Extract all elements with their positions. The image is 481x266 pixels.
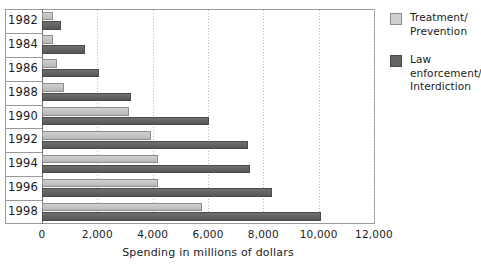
legend-label-line1: Treatment/ bbox=[410, 11, 480, 25]
category-separator bbox=[5, 9, 42, 10]
bar-treatment-1996 bbox=[42, 179, 158, 188]
chart-row: 1990 bbox=[0, 105, 375, 129]
bar-enforcement-1990 bbox=[42, 117, 209, 126]
bar-treatment-1998 bbox=[42, 203, 202, 212]
category-separator bbox=[5, 105, 42, 106]
chart-rows-group: 198219841986198819901992199419961998 bbox=[0, 9, 375, 224]
category-separator bbox=[5, 152, 42, 153]
category-separator bbox=[5, 176, 42, 177]
x-tick-label: 2,000 bbox=[82, 228, 113, 240]
bar-treatment-1988 bbox=[42, 83, 64, 92]
x-tick-label: 8,000 bbox=[248, 228, 279, 240]
bar-treatment-1994 bbox=[42, 155, 158, 164]
category-label-1994: 1994 bbox=[5, 155, 38, 172]
bar-chart-figure: 198219841986198819901992199419961998 02,… bbox=[0, 0, 481, 266]
x-tick-label: 12,000 bbox=[355, 228, 393, 240]
x-tick-label: 4,000 bbox=[137, 228, 168, 240]
chart-row: 1988 bbox=[0, 81, 375, 105]
chart-legend: Treatment/PreventionLaw enforcement/Inte… bbox=[390, 11, 480, 108]
bar-enforcement-1996 bbox=[42, 188, 272, 197]
chart-row: 1998 bbox=[0, 200, 375, 224]
legend-label-enforcement: Law enforcement/Interdiction bbox=[410, 53, 480, 94]
category-label-1984: 1984 bbox=[5, 36, 38, 53]
bar-treatment-1990 bbox=[42, 107, 129, 116]
x-axis-title: Spending in millions of dollars bbox=[41, 246, 375, 259]
category-label-1998: 1998 bbox=[5, 203, 38, 220]
chart-row: 1982 bbox=[0, 9, 375, 33]
legend-label-treatment: Treatment/Prevention bbox=[410, 11, 480, 38]
category-separator bbox=[5, 200, 42, 201]
category-label-1988: 1988 bbox=[5, 84, 38, 101]
x-tick-label: 10,000 bbox=[300, 228, 338, 240]
chart-row: 1992 bbox=[0, 128, 375, 152]
category-label-1986: 1986 bbox=[5, 60, 38, 77]
chart-row: 1986 bbox=[0, 57, 375, 81]
bar-treatment-1992 bbox=[42, 131, 151, 140]
bar-enforcement-1988 bbox=[42, 93, 131, 102]
bar-treatment-1986 bbox=[42, 59, 57, 68]
bar-enforcement-1994 bbox=[42, 165, 250, 174]
bar-enforcement-1998 bbox=[42, 212, 321, 221]
category-label-1992: 1992 bbox=[5, 131, 38, 148]
chart-row: 1996 bbox=[0, 176, 375, 200]
legend-item-enforcement: Law enforcement/Interdiction bbox=[390, 53, 480, 94]
bar-enforcement-1982 bbox=[42, 21, 61, 30]
legend-swatch-enforcement bbox=[390, 55, 402, 67]
x-tick-label: 6,000 bbox=[192, 228, 223, 240]
x-tick-label: 0 bbox=[39, 228, 46, 240]
category-separator bbox=[5, 33, 42, 34]
bar-enforcement-1984 bbox=[42, 45, 85, 54]
bar-treatment-1982 bbox=[42, 12, 53, 21]
category-label-1982: 1982 bbox=[5, 12, 38, 29]
category-separator bbox=[5, 57, 42, 58]
bar-enforcement-1986 bbox=[42, 69, 99, 78]
category-label-1996: 1996 bbox=[5, 179, 38, 196]
bar-enforcement-1992 bbox=[42, 141, 248, 150]
legend-item-treatment: Treatment/Prevention bbox=[390, 11, 480, 39]
category-separator bbox=[5, 128, 42, 129]
legend-label-line2: Prevention bbox=[410, 25, 480, 39]
category-separator bbox=[5, 81, 42, 82]
legend-label-line2: Interdiction bbox=[410, 80, 480, 94]
category-label-1990: 1990 bbox=[5, 108, 38, 125]
chart-row: 1984 bbox=[0, 33, 375, 57]
chart-row: 1994 bbox=[0, 152, 375, 176]
legend-swatch-treatment bbox=[390, 13, 402, 25]
legend-label-line1: Law enforcement/ bbox=[410, 53, 480, 80]
bar-treatment-1984 bbox=[42, 35, 53, 44]
